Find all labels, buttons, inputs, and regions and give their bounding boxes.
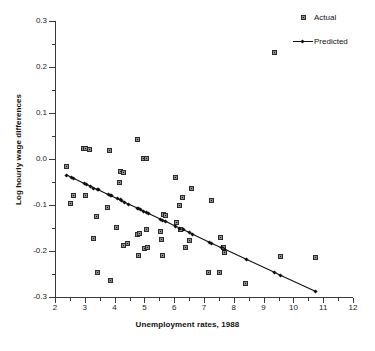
scatter-chart: 0.30.20.10.0-0.1-0.2-0.3 23456789101112 … [0, 0, 375, 351]
data-point-actual [94, 214, 99, 219]
chart-legend: Actual Predicted [292, 10, 372, 58]
data-point-actual [160, 253, 165, 258]
data-point-actual [91, 236, 96, 241]
data-point-actual [158, 229, 163, 234]
line-diamond-marker-icon [292, 39, 314, 44]
data-point-actual [64, 164, 69, 169]
data-point-actual [278, 254, 283, 259]
data-point-actual [135, 137, 140, 142]
data-point-actual [159, 237, 164, 242]
legend-item-predicted[interactable]: Predicted [292, 34, 372, 49]
data-point-actual [95, 270, 100, 275]
data-point-actual [117, 180, 122, 185]
data-point-actual [144, 227, 149, 232]
data-point-actual [243, 281, 248, 286]
data-point-actual [313, 255, 318, 260]
data-point-actual [163, 213, 168, 218]
legend-label-actual: Actual [314, 13, 336, 22]
legend-label-predicted: Predicted [314, 37, 348, 46]
data-point-actual [87, 147, 92, 152]
square-marker-icon [292, 15, 314, 20]
data-point-actual [114, 225, 119, 230]
data-point-actual [183, 245, 188, 250]
data-point-actual [209, 198, 214, 203]
data-point-actual [206, 270, 211, 275]
data-point-actual [108, 278, 113, 283]
legend-item-actual[interactable]: Actual [292, 10, 372, 25]
data-point-actual [83, 193, 88, 198]
data-point-actual [145, 245, 150, 250]
data-point-actual [218, 235, 223, 240]
data-point-actual [137, 231, 142, 236]
data-point-actual [173, 175, 178, 180]
data-point-actual [71, 193, 76, 198]
data-point-actual [217, 270, 222, 275]
data-point-actual [107, 148, 112, 153]
data-point-actual [68, 201, 73, 206]
data-point-actual [177, 203, 182, 208]
data-point-actual [180, 195, 185, 200]
data-point-actual [125, 241, 130, 246]
data-point-actual [144, 156, 149, 161]
data-point-predicted [190, 232, 194, 236]
data-point-actual [187, 238, 192, 243]
data-point-actual [121, 170, 126, 175]
data-point-actual [136, 253, 141, 258]
data-point-actual [105, 205, 110, 210]
data-point-actual [189, 186, 194, 191]
data-point-actual [272, 50, 277, 55]
